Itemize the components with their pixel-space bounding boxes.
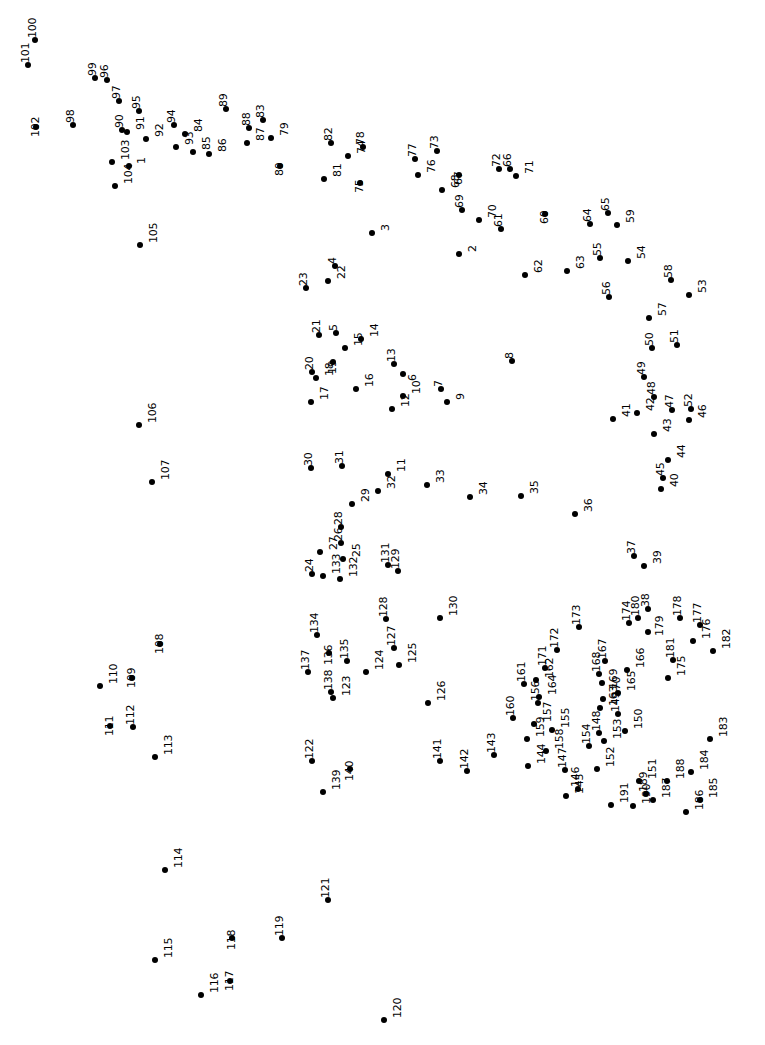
dot-number-label: 126: [436, 681, 447, 701]
dot-number-label: 17: [319, 386, 330, 400]
dot-marker: [601, 738, 607, 744]
dot-number-label: 124: [374, 650, 385, 670]
dot-number-label: 46: [697, 404, 708, 418]
dot-marker: [518, 493, 524, 499]
dot-number-label: 80: [274, 162, 285, 176]
dot-number-label: 60: [539, 210, 550, 224]
dot-number-label: 101: [20, 43, 31, 63]
dot-number-label: 105: [148, 223, 159, 243]
dot-number-label: 1: [136, 157, 147, 164]
dot-number-label: 81: [332, 163, 343, 177]
dot-marker: [594, 766, 600, 772]
dot-marker: [342, 345, 348, 351]
dot-number-label: 146: [570, 767, 581, 787]
dot-number-label: 79: [279, 122, 290, 136]
dot-number-label: 97: [111, 85, 122, 99]
dot-number-label: 86: [217, 138, 228, 152]
dot-number-label: 123: [341, 676, 352, 696]
dot-number-label: 56: [601, 281, 612, 295]
dot-number-label: 173: [571, 605, 582, 625]
dot-marker: [600, 696, 606, 702]
dot-marker: [533, 677, 539, 683]
dot-marker: [325, 278, 331, 284]
dot-marker: [597, 705, 603, 711]
dot-number-label: 53: [697, 279, 708, 293]
dot-number-label: 140: [344, 761, 355, 781]
dot-number-label: 71: [524, 160, 535, 174]
dot-number-label: 109: [126, 668, 137, 688]
dot-marker: [686, 292, 692, 298]
connect-the-dots-canvas: 1234567891011121314151617181920212223242…: [0, 0, 765, 1045]
dot-marker: [152, 754, 158, 760]
dot-marker: [624, 667, 630, 673]
dot-number-label: 94: [166, 109, 177, 123]
dot-number-label: 135: [339, 639, 350, 659]
dot-number-label: 24: [304, 558, 315, 572]
dot-number-label: 93: [184, 131, 195, 145]
dot-number-label: 2: [467, 245, 478, 252]
dot-marker: [444, 399, 450, 405]
dot-marker: [396, 662, 402, 668]
dot-number-label: 125: [407, 643, 418, 663]
dot-marker: [599, 680, 605, 686]
dot-number-label: 117: [224, 971, 235, 991]
dot-marker: [630, 803, 636, 809]
dot-number-label: 5: [328, 324, 339, 331]
dot-marker: [321, 176, 327, 182]
dot-number-label: 175: [676, 656, 687, 676]
dot-number-label: 8: [504, 352, 515, 359]
dot-number-label: 78: [355, 131, 366, 145]
dot-marker: [198, 992, 204, 998]
dot-number-label: 63: [575, 255, 586, 269]
dot-number-label: 132: [348, 557, 359, 577]
dot-number-label: 22: [336, 265, 347, 279]
dot-number-label: 134: [309, 613, 320, 633]
dot-number-label: 150: [633, 709, 644, 729]
dot-number-label: 98: [65, 109, 76, 123]
dot-number-label: 108: [154, 634, 165, 654]
dot-number-label: 182: [721, 629, 732, 649]
dot-marker: [320, 573, 326, 579]
dot-number-label: 155: [560, 708, 571, 728]
dot-marker: [124, 129, 130, 135]
dot-number-label: 14: [369, 323, 380, 337]
dot-number-label: 128: [378, 597, 389, 617]
dot-number-label: 185: [708, 778, 719, 798]
dot-number-label: 95: [131, 95, 142, 109]
dot-number-label: 54: [636, 245, 647, 259]
dot-number-label: 47: [664, 394, 675, 408]
dot-marker: [651, 431, 657, 437]
dot-number-label: 165: [626, 671, 637, 691]
dot-marker: [375, 488, 381, 494]
dot-number-label: 171: [537, 646, 548, 666]
dot-marker: [625, 258, 631, 264]
dot-number-label: 65: [600, 197, 611, 211]
dot-marker: [389, 406, 395, 412]
dot-number-label: 3: [380, 224, 391, 231]
dot-number-label: 25: [351, 543, 362, 557]
dot-number-label: 90: [114, 114, 125, 128]
dot-marker: [614, 222, 620, 228]
dot-number-label: 112: [125, 705, 136, 725]
dot-number-label: 66: [502, 153, 513, 167]
dot-number-label: 68: [450, 174, 461, 188]
dot-number-label: 41: [621, 403, 632, 417]
dot-number-label: 188: [675, 759, 686, 779]
dot-number-label: 136: [323, 645, 334, 665]
dot-marker: [524, 736, 530, 742]
dot-number-label: 91: [135, 116, 146, 130]
dot-number-label: 122: [304, 739, 315, 759]
dot-number-label: 10: [411, 380, 422, 394]
dot-number-label: 159: [535, 717, 546, 737]
dot-number-label: 75: [354, 179, 365, 193]
dot-marker: [136, 422, 142, 428]
dot-number-label: 133: [331, 554, 342, 574]
dot-number-label: 147: [557, 748, 568, 768]
dot-marker: [536, 694, 542, 700]
dot-marker: [152, 957, 158, 963]
dot-number-label: 64: [582, 208, 593, 222]
dot-number-label: 15: [353, 332, 364, 346]
dot-number-label: 4: [327, 257, 338, 264]
dot-marker: [320, 789, 326, 795]
dot-marker: [308, 399, 314, 405]
